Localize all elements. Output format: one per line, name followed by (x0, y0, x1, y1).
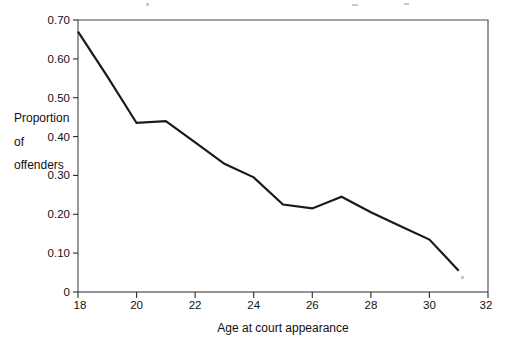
x-tick-labels: 18 20 22 24 26 28 30 32 (74, 299, 493, 311)
y-tick-label: 0.60 (48, 53, 70, 65)
x-tick-label: 26 (306, 299, 319, 311)
y-tick-labels: 0 0.10 0.20 0.30 0.40 0.50 0.60 0.70 (48, 14, 70, 298)
y-tick-label: 0.40 (48, 131, 70, 143)
x-tick-label: 18 (74, 299, 87, 311)
y-tick-label: 0.70 (48, 14, 70, 26)
chart-figure: 0 0.10 0.20 0.30 0.40 0.50 0.60 0.70 Pro… (0, 0, 514, 344)
y-tick-label: 0.10 (48, 247, 70, 259)
line-chart: 0 0.10 0.20 0.30 0.40 0.50 0.60 0.70 Pro… (0, 0, 514, 344)
x-tick-marks (78, 292, 488, 298)
x-tick-label: 30 (423, 299, 436, 311)
x-axis-title: Age at court appearance (217, 321, 349, 335)
y-axis-title-line: of (14, 135, 25, 149)
y-axis-title-line: offenders (14, 158, 64, 172)
x-tick-label: 28 (365, 299, 378, 311)
x-tick-label: 22 (189, 299, 202, 311)
x-tick-label: 32 (480, 299, 493, 311)
y-tick-label: 0 (64, 286, 70, 298)
y-tick-marks (73, 20, 78, 292)
y-tick-label: 0.20 (48, 208, 70, 220)
y-tick-label: 0.50 (48, 92, 70, 104)
y-axis-title-line: Proportion (14, 111, 69, 125)
x-tick-label: 20 (130, 299, 143, 311)
x-tick-label: 24 (247, 299, 260, 311)
data-series-line (78, 32, 459, 271)
plot-frame (78, 20, 488, 292)
